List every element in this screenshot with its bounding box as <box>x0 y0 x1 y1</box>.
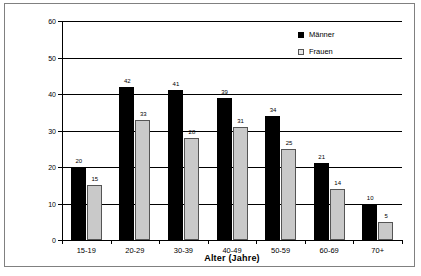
bar-frauen-15-19 <box>87 185 102 240</box>
bar-maenner-15-19 <box>71 167 86 240</box>
x-axis-title: Alter (Jahre) <box>62 253 402 263</box>
legend-label-frauen: Frauen <box>309 48 333 56</box>
y-tick-mark-10 <box>58 204 62 205</box>
x-tick-mark <box>208 240 209 244</box>
y-tick-label-0: 0 <box>36 237 56 244</box>
bar-maenner-40-49 <box>217 98 232 240</box>
legend-item-frauen: Frauen <box>298 46 376 58</box>
bar-group: 4128 <box>168 21 199 240</box>
x-tick-mark <box>62 240 63 244</box>
bar-maenner-60-69 <box>314 163 329 240</box>
x-tick-mark <box>353 240 354 244</box>
gridline-0 <box>62 240 402 241</box>
value-label: 10 <box>360 195 380 201</box>
legend-item-maenner: Männer <box>298 29 376 41</box>
value-label: 34 <box>263 107 283 113</box>
value-label: 39 <box>215 89 235 95</box>
chart-frame: Prozent 0102030405060 201542334128393134… <box>4 3 415 267</box>
bar-group: 3425 <box>265 21 296 240</box>
y-tick-label-40: 40 <box>36 91 56 98</box>
bar-frauen-30-39 <box>184 138 199 240</box>
bar-frauen-60-69 <box>330 189 345 240</box>
y-tick-mark-60 <box>58 21 62 22</box>
y-tick-label-20: 20 <box>36 164 56 171</box>
bar-frauen-50-59 <box>281 149 296 240</box>
value-label: 28 <box>182 129 202 135</box>
value-label: 33 <box>133 111 153 117</box>
value-label: 21 <box>312 154 332 160</box>
x-tick-mark <box>159 240 160 244</box>
bar-group: 3931 <box>217 21 248 240</box>
value-label: 14 <box>328 180 348 186</box>
y-tick-label-30: 30 <box>36 128 56 135</box>
y-tick-label-50: 50 <box>36 55 56 62</box>
value-label: 42 <box>117 78 137 84</box>
bar-frauen-20-29 <box>135 120 150 240</box>
plot-area: 0102030405060 20154233412839313425211410… <box>62 21 402 240</box>
x-tick-mark <box>305 240 306 244</box>
value-label: 31 <box>231 118 251 124</box>
x-tick-mark <box>402 240 403 244</box>
x-tick-mark <box>256 240 257 244</box>
value-label: 25 <box>279 140 299 146</box>
legend-swatch-frauen-icon <box>298 49 304 55</box>
y-tick-mark-30 <box>58 131 62 132</box>
y-tick-mark-40 <box>58 94 62 95</box>
y-tick-label-10: 10 <box>36 201 56 208</box>
value-label: 15 <box>85 176 105 182</box>
bar-group: 4233 <box>119 21 150 240</box>
y-tick-label-60: 60 <box>36 18 56 25</box>
bar-group: 2015 <box>71 21 102 240</box>
chart-legend: Männer Frauen <box>298 29 376 63</box>
legend-swatch-maenner-icon <box>298 32 304 38</box>
legend-label-maenner: Männer <box>309 31 334 39</box>
bar-maenner-30-39 <box>168 90 183 240</box>
bar-maenner-20-29 <box>119 87 134 240</box>
bar-maenner-50-59 <box>265 116 280 240</box>
bar-frauen-70+ <box>378 222 393 240</box>
value-label: 5 <box>376 213 396 219</box>
x-tick-mark <box>111 240 112 244</box>
y-tick-mark-50 <box>58 58 62 59</box>
bar-frauen-40-49 <box>233 127 248 240</box>
value-label: 41 <box>166 81 186 87</box>
y-tick-mark-20 <box>58 167 62 168</box>
value-label: 20 <box>69 158 89 164</box>
bar-maenner-70+ <box>362 204 377 241</box>
